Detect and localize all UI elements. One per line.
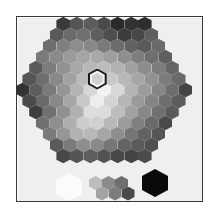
- color-picker-panel: Grayscale hexagon color picker: [16, 16, 203, 202]
- honeycomb-grid[interactable]: [17, 17, 202, 201]
